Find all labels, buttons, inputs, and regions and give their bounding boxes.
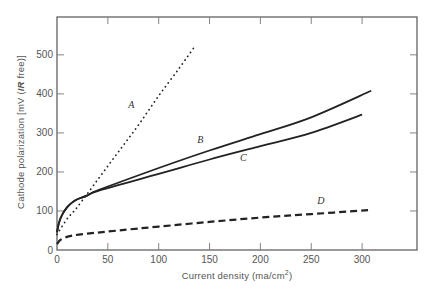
x-tick-labels: 050100150200250300 — [54, 254, 371, 265]
plot-border — [57, 17, 417, 250]
y-tick-label: 200 — [36, 166, 53, 177]
x-tick-label: 250 — [303, 254, 320, 265]
curve-label-d: D — [316, 195, 325, 206]
polarization-chart: 050100150200250300 0100200300400500 ABCD… — [0, 0, 431, 297]
y-tick-label: 500 — [36, 49, 53, 60]
curve-d — [57, 210, 368, 244]
curve-b — [57, 91, 371, 233]
x-tick-label: 200 — [252, 254, 269, 265]
x-tick-label: 300 — [354, 254, 371, 265]
y-axis-title: Cathode polarization [mV (IR free)] — [15, 55, 26, 209]
y-tick-labels: 0100200300400500 — [36, 49, 53, 255]
plot-frame — [57, 17, 417, 250]
curve-label-c: C — [240, 152, 247, 163]
x-tick-label: 100 — [150, 254, 167, 265]
curves — [57, 47, 371, 244]
y-tick-label: 100 — [36, 205, 53, 216]
curve-label-a: A — [127, 99, 135, 110]
y-tick-label: 0 — [47, 245, 53, 256]
x-axis-title: Current density (ma/cm2) — [182, 269, 293, 281]
x-tick-label: 50 — [102, 254, 114, 265]
curve-label-b: B — [197, 134, 203, 145]
axis-ticks — [57, 17, 417, 250]
y-tick-label: 400 — [36, 88, 53, 99]
curve-labels: ABCD — [127, 99, 325, 207]
curve-c — [57, 115, 362, 233]
y-tick-label: 300 — [36, 127, 53, 138]
curve-a — [57, 47, 194, 234]
x-tick-label: 150 — [201, 254, 218, 265]
x-tick-label: 0 — [54, 254, 60, 265]
